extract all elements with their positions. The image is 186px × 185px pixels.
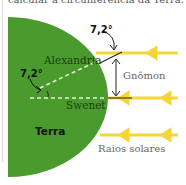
rays-label: Raios solares xyxy=(98,143,165,154)
angle-top-label: 7,2° xyxy=(90,24,113,35)
earth-shape xyxy=(8,17,108,177)
sun-rays xyxy=(96,48,178,140)
gnomon-arrow xyxy=(112,59,120,96)
swenet-label: Swenet xyxy=(66,99,106,111)
earth-label: Terra xyxy=(35,125,65,137)
alexandria-label: Alexandria xyxy=(44,54,101,66)
angle-center-label: 7,2° xyxy=(20,68,43,79)
gnomon-label: Gnômon xyxy=(123,70,165,81)
